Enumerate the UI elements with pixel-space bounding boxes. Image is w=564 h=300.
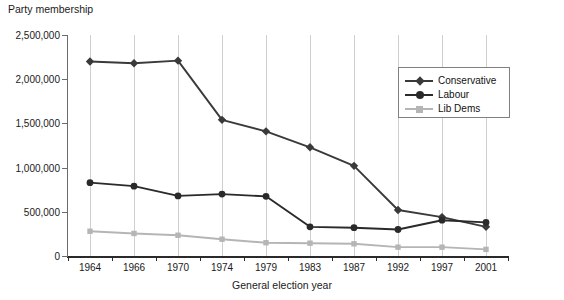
data-point xyxy=(395,226,402,233)
data-point xyxy=(263,240,268,245)
data-point xyxy=(87,179,94,186)
x-axis-tick xyxy=(376,256,377,261)
y-axis-tick xyxy=(62,212,68,213)
x-axis-tick xyxy=(508,256,509,261)
legend-swatch-icon xyxy=(405,75,433,87)
legend-label: Labour xyxy=(438,89,469,101)
series-line xyxy=(90,183,486,230)
x-axis-title: General election year xyxy=(0,279,564,291)
x-axis-tick xyxy=(156,256,157,261)
data-point xyxy=(175,192,182,199)
legend-swatch-icon xyxy=(405,89,433,101)
y-axis-tick xyxy=(62,35,68,36)
series-layer xyxy=(0,0,564,300)
legend-swatch-icon xyxy=(405,103,433,115)
series-lib-dems xyxy=(87,229,488,253)
data-point xyxy=(483,219,490,226)
x-axis-tick xyxy=(332,256,333,261)
legend-item-labour[interactable]: Labour xyxy=(405,87,469,102)
x-axis-tick xyxy=(464,256,465,261)
data-point xyxy=(395,244,400,249)
series-line xyxy=(90,231,486,249)
data-point xyxy=(483,247,488,252)
data-point xyxy=(439,244,444,249)
y-axis-tick xyxy=(62,168,68,169)
x-axis-tick xyxy=(244,256,245,261)
data-point xyxy=(130,59,138,67)
data-point xyxy=(307,223,314,230)
y-axis-tick xyxy=(62,79,68,80)
data-point xyxy=(219,191,226,198)
data-point xyxy=(219,237,224,242)
data-point xyxy=(306,143,314,151)
legend-item-conservative[interactable]: Conservative xyxy=(405,73,496,88)
data-point xyxy=(351,241,356,246)
x-axis-tick xyxy=(68,256,69,261)
legend: ConservativeLabourLib Dems xyxy=(398,67,510,118)
data-point xyxy=(87,229,92,234)
x-axis-tick xyxy=(288,256,289,261)
series-labour xyxy=(87,179,490,233)
legend-label: Conservative xyxy=(438,75,496,87)
data-point xyxy=(262,127,270,135)
data-point xyxy=(263,193,270,200)
data-point xyxy=(175,233,180,238)
data-point xyxy=(131,231,136,236)
legend-item-lib-dems[interactable]: Lib Dems xyxy=(405,101,480,116)
legend-label: Lib Dems xyxy=(438,103,480,115)
x-axis-tick xyxy=(112,256,113,261)
data-point xyxy=(307,240,312,245)
x-axis-tick xyxy=(200,256,201,261)
data-point xyxy=(351,224,358,231)
data-point xyxy=(439,217,446,224)
line-chart: Party membership 0500,0001,000,0001,500,… xyxy=(0,0,564,300)
data-point xyxy=(86,57,94,65)
x-axis-tick xyxy=(420,256,421,261)
y-axis-tick xyxy=(62,123,68,124)
data-point xyxy=(131,183,138,190)
